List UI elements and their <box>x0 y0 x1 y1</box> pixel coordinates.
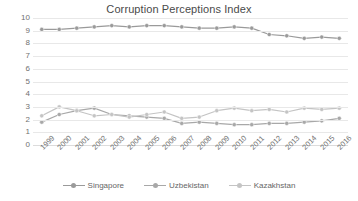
data-point <box>110 112 114 116</box>
data-point <box>320 35 324 39</box>
data-point <box>127 25 131 29</box>
legend-item-kazakhstan[interactable]: Kazakhstan <box>229 181 296 190</box>
data-point <box>162 24 166 28</box>
data-point <box>75 26 79 30</box>
data-point <box>320 107 324 111</box>
gridline-4 <box>33 94 348 95</box>
series-line <box>42 26 340 39</box>
data-point <box>197 115 201 119</box>
legend-label: Singapore <box>88 181 124 190</box>
legend-item-uzbekistan[interactable]: Uzbekistan <box>144 181 209 190</box>
gridline-10 <box>33 18 348 19</box>
data-point <box>267 32 271 36</box>
data-point <box>302 120 306 124</box>
data-point <box>127 115 131 119</box>
chart-legend: SingaporeUzbekistanKazakhstan <box>0 181 358 190</box>
gridline-5 <box>33 82 348 83</box>
legend-label: Kazakhstan <box>254 181 296 190</box>
y-tick-label: 10 <box>4 14 30 22</box>
data-point <box>285 110 289 114</box>
legend-marker-icon <box>63 182 85 190</box>
data-point <box>92 114 96 118</box>
gridline-3 <box>33 107 348 108</box>
data-point <box>232 123 236 127</box>
y-tick-label: 1 <box>4 128 30 136</box>
gridline-6 <box>33 69 348 70</box>
data-point <box>110 24 114 28</box>
data-point <box>145 24 149 28</box>
y-tick-label: 8 <box>4 39 30 47</box>
chart-container: Corruption Perceptions Index 10987654321… <box>0 0 358 201</box>
data-point <box>180 121 184 125</box>
plot-area <box>33 18 348 145</box>
y-tick-label: 3 <box>4 103 30 111</box>
y-tick-label: 6 <box>4 65 30 73</box>
legend-marker-icon <box>229 182 251 190</box>
series-singapore <box>40 24 342 41</box>
y-tick-label: 4 <box>4 90 30 98</box>
data-point <box>250 109 254 113</box>
gridline-8 <box>33 43 348 44</box>
chart-title: Corruption Perceptions Index <box>0 3 358 15</box>
data-point <box>197 120 201 124</box>
series-line <box>42 107 340 118</box>
y-tick-label: 7 <box>4 52 30 60</box>
data-point <box>145 112 149 116</box>
data-point <box>180 25 184 29</box>
series-uzbekistan <box>40 106 342 127</box>
data-point <box>40 114 44 118</box>
y-tick-label: 5 <box>4 78 30 86</box>
gridline-2 <box>33 120 348 121</box>
data-point <box>215 109 219 113</box>
y-tick-label: 0 <box>4 141 30 149</box>
y-axis: 109876543210 <box>0 18 30 145</box>
data-point <box>250 123 254 127</box>
legend-item-singapore[interactable]: Singapore <box>63 181 124 190</box>
legend-label: Uzbekistan <box>169 181 209 190</box>
data-point <box>40 120 44 124</box>
data-point <box>267 121 271 125</box>
data-point <box>285 121 289 125</box>
gridline-9 <box>33 31 348 32</box>
data-point <box>215 121 219 125</box>
x-axis: 1999200020012002200320042005200620072008… <box>33 146 348 178</box>
data-point <box>285 34 289 38</box>
data-point <box>250 26 254 30</box>
y-tick-label: 2 <box>4 116 30 124</box>
data-point <box>337 36 341 40</box>
data-point <box>162 110 166 114</box>
data-point <box>215 26 219 30</box>
gridline-7 <box>33 56 348 57</box>
data-point <box>302 36 306 40</box>
data-point <box>75 109 79 113</box>
y-tick-label: 9 <box>4 27 30 35</box>
data-point <box>92 25 96 29</box>
data-point <box>57 112 61 116</box>
data-point <box>232 25 236 29</box>
data-point <box>267 107 271 111</box>
data-point <box>197 26 201 30</box>
legend-marker-icon <box>144 182 166 190</box>
